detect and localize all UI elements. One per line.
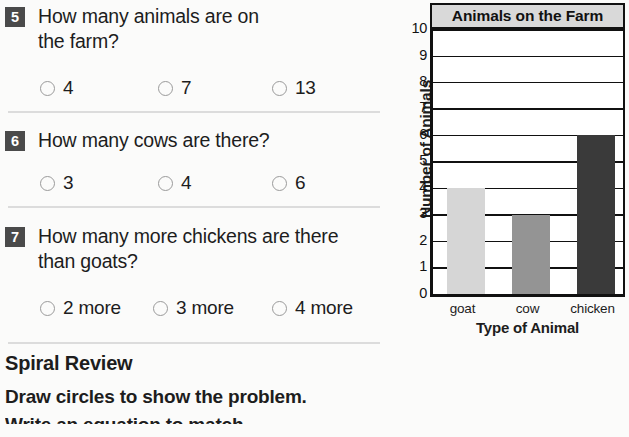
question-number-badge-5: 5 xyxy=(5,7,25,27)
chart-x-tick-label-cow: cow xyxy=(495,301,560,316)
question-5-option-2[interactable]: 7 xyxy=(158,78,191,98)
question-block-6: 6 How many cows are there? xyxy=(0,128,400,153)
radio-circle-icon[interactable] xyxy=(158,81,173,96)
question-5-heading: 5 How many animals are on the farm? xyxy=(0,4,400,54)
spiral-review-instruction-2: Write an equation to match. xyxy=(5,414,395,424)
question-6-option-1[interactable]: 3 xyxy=(40,173,73,193)
chart-gridline xyxy=(433,108,623,110)
question-6-option-3-label: 6 xyxy=(295,173,305,193)
question-7-option-2-label: 3 more xyxy=(176,298,234,318)
chart-y-axis-ticks: 012345678910 xyxy=(398,29,427,297)
chart-y-tick-label: 5 xyxy=(401,152,427,168)
chart-bar-goat xyxy=(447,188,485,294)
radio-circle-icon[interactable] xyxy=(40,176,55,191)
chart-y-tick-label: 7 xyxy=(401,99,427,115)
radio-circle-icon[interactable] xyxy=(40,301,55,316)
question-5-option-1[interactable]: 4 xyxy=(40,78,73,98)
question-7-text-line-2: than goats? xyxy=(38,249,338,274)
question-6-option-2-label: 4 xyxy=(181,173,191,193)
chart-y-tick-label: 0 xyxy=(401,285,427,301)
chart-plot-area xyxy=(430,29,625,297)
chart-y-tick-label: 10 xyxy=(401,20,427,36)
question-7-option-1[interactable]: 2 more xyxy=(40,298,121,318)
chart-title-band: Animals on the Farm xyxy=(430,3,625,29)
question-5-text-line-2: the farm? xyxy=(38,29,259,54)
chart-y-tick-label: 3 xyxy=(401,205,427,221)
question-7-option-3-label: 4 more xyxy=(295,298,353,318)
chart-x-tick-label-chicken: chicken xyxy=(560,301,625,316)
question-7-option-1-label: 2 more xyxy=(63,298,121,318)
chart-gridline xyxy=(433,82,623,84)
chart-bar-cow xyxy=(512,215,550,294)
question-separator-2 xyxy=(8,206,380,208)
radio-circle-icon[interactable] xyxy=(272,301,287,316)
question-5-option-1-label: 4 xyxy=(63,78,73,98)
question-5-text: How many animals are on the farm? xyxy=(38,4,259,54)
question-7-option-2[interactable]: 3 more xyxy=(153,298,234,318)
question-6-text: How many cows are there? xyxy=(38,128,269,153)
chart-bar-chicken xyxy=(577,135,615,294)
chart-y-tick-label: 2 xyxy=(401,232,427,248)
question-separator-3 xyxy=(8,342,380,344)
worksheet-questions-column: 5 How many animals are on the farm? 4 7 … xyxy=(0,0,400,437)
question-7-text-line-1: How many more chickens are there xyxy=(38,224,338,249)
question-6-option-2[interactable]: 4 xyxy=(158,173,191,193)
question-6-heading: 6 How many cows are there? xyxy=(0,128,400,153)
question-7-text: How many more chickens are there than go… xyxy=(38,224,338,274)
chart-y-tick-label: 4 xyxy=(401,179,427,195)
radio-circle-icon[interactable] xyxy=(158,176,173,191)
radio-circle-icon[interactable] xyxy=(272,81,287,96)
bar-chart: Number of Animals Animals on the Farm 01… xyxy=(398,0,629,437)
question-5-text-line-1: How many animals are on xyxy=(38,4,259,29)
spiral-review-title: Spiral Review xyxy=(5,352,395,375)
question-block-5: 5 How many animals are on the farm? xyxy=(0,4,400,54)
spiral-review-instruction: Draw circles to show the problem. xyxy=(5,386,395,408)
question-separator-1 xyxy=(8,111,380,113)
question-7-heading: 7 How many more chickens are there than … xyxy=(0,224,400,274)
chart-gridline xyxy=(433,56,623,58)
question-5-option-3-label: 13 xyxy=(295,78,316,98)
radio-circle-icon[interactable] xyxy=(153,301,168,316)
chart-gridline xyxy=(433,29,623,31)
question-7-option-3[interactable]: 4 more xyxy=(272,298,353,318)
chart-y-tick-label: 6 xyxy=(401,126,427,142)
chart-x-axis-title: Type of Animal xyxy=(430,319,625,336)
radio-circle-icon[interactable] xyxy=(272,176,287,191)
question-number-badge-7: 7 xyxy=(5,227,25,247)
question-5-option-3[interactable]: 13 xyxy=(272,78,316,98)
question-6-option-1-label: 3 xyxy=(63,173,73,193)
question-5-option-2-label: 7 xyxy=(181,78,191,98)
chart-y-tick-label: 8 xyxy=(401,73,427,89)
chart-y-tick-label: 9 xyxy=(401,47,427,63)
question-number-badge-6: 6 xyxy=(5,131,25,151)
chart-y-tick-label: 1 xyxy=(401,258,427,274)
question-block-7: 7 How many more chickens are there than … xyxy=(0,224,400,274)
question-6-options: 3 4 6 xyxy=(0,173,400,199)
chart-x-tick-label-goat: goat xyxy=(430,301,495,316)
question-7-options: 2 more 3 more 4 more xyxy=(0,298,400,324)
question-6-option-3[interactable]: 6 xyxy=(272,173,305,193)
question-6-text-line-1: How many cows are there? xyxy=(38,128,269,153)
radio-circle-icon[interactable] xyxy=(40,81,55,96)
spiral-review-section: Spiral Review Draw circles to show the p… xyxy=(5,352,395,424)
question-5-options: 4 7 13 xyxy=(0,78,400,104)
chart-title: Animals on the Farm xyxy=(452,7,603,25)
